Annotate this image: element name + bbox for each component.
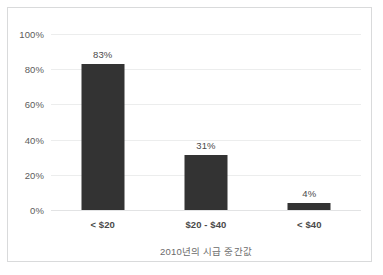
bar-0[interactable]	[81, 64, 124, 210]
y-tick-label-60: 60%	[25, 99, 44, 110]
bar-value-label-1: 31%	[196, 140, 215, 151]
bar-group-2: 4% < $40	[258, 34, 361, 210]
x-tick-label-1: $20 - $40	[185, 219, 226, 230]
bar-value-label-2: 4%	[302, 188, 316, 199]
y-tick-label-40: 40%	[25, 134, 44, 145]
y-tick-label-20: 20%	[25, 169, 44, 180]
bar-group-1: 31% $20 - $40	[154, 34, 257, 210]
y-tick-label-0: 0%	[30, 205, 44, 216]
plot-area: 100% 80% 60% 40% 20% 0% 83% < $20 31% $2…	[51, 34, 361, 210]
x-axis-title: 2010년의 시급 중간값	[51, 244, 361, 258]
x-tick-label-0: < $20	[90, 219, 115, 230]
x-tick-label-2: < $40	[297, 219, 322, 230]
y-tick-label-80: 80%	[25, 64, 44, 75]
axis-baseline	[51, 210, 361, 211]
bar-2[interactable]	[288, 203, 331, 210]
bar-layer: 83% < $20 31% $20 - $40 4% < $40	[51, 34, 361, 210]
bar-1[interactable]	[184, 155, 227, 210]
bar-value-label-0: 83%	[93, 49, 112, 60]
y-tick-label-100: 100%	[19, 29, 44, 40]
chart-frame: 100% 80% 60% 40% 20% 0% 83% < $20 31% $2…	[7, 7, 372, 262]
bar-group-0: 83% < $20	[51, 34, 154, 210]
